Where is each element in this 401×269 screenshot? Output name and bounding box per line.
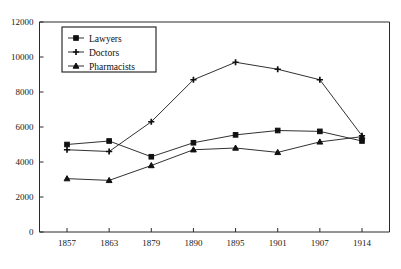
x-tick-label: 1863 [100,238,119,248]
y-tick-label: 6000 [16,122,35,132]
x-tick-label: 1901 [269,238,287,248]
chart-legend: LawyersDoctorsPharmacists [62,27,156,72]
x-tick-label: 1907 [311,238,330,248]
data-point-lawyers-1879 [149,154,154,159]
data-point-lawyers-1907 [318,129,323,134]
series-group [64,59,365,182]
y-tick-label: 12000 [11,17,34,27]
legend-label-lawyers: Lawyers [89,34,122,44]
data-point-lawyers-1890 [191,140,196,145]
data-point-lawyers-1857 [65,142,70,147]
data-point-doctors-1857 [64,147,70,153]
data-point-pharmacists-1895 [233,145,239,150]
data-point-pharmacists-1857 [64,176,70,181]
data-point-lawyers-1914 [360,139,365,144]
y-tick-label: 2000 [16,192,35,202]
data-point-lawyers-1895 [233,133,238,138]
y-axis-ticks: 020004000600080001000012000 [11,17,44,237]
y-tick-label: 8000 [16,87,35,97]
line-chart: 020004000600080001000012000 185718631879… [0,0,401,269]
x-axis-ticks: 18571863187918901895190119071914 [58,228,372,248]
data-point-doctors-1895 [232,59,238,65]
series-line-doctors [67,62,362,151]
x-tick-label: 1857 [58,238,77,248]
x-tick-label: 1890 [184,238,203,248]
legend-label-doctors: Doctors [89,48,119,58]
data-point-lawyers-1901 [275,128,280,133]
legend-marker-lawyers [74,36,79,41]
data-point-doctors-1901 [275,66,281,72]
chart-canvas: 020004000600080001000012000 185718631879… [0,0,401,269]
data-point-doctors-1863 [106,148,112,154]
x-tick-label: 1895 [227,238,246,248]
legend-label-pharmacists: Pharmacists [89,62,135,72]
y-tick-label: 4000 [16,157,35,167]
x-tick-label: 1914 [353,238,372,248]
x-tick-label: 1879 [142,238,161,248]
data-point-lawyers-1863 [107,139,112,144]
y-tick-label: 10000 [11,52,34,62]
y-tick-label: 0 [29,227,34,237]
